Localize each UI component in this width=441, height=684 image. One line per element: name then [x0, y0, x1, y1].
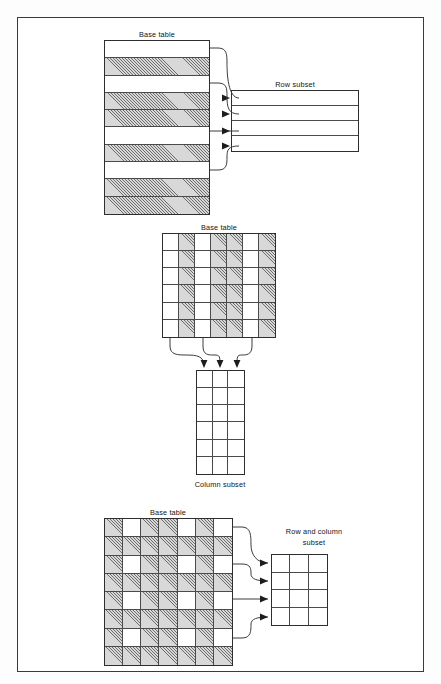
figure-page: Base table Row subset Base table Column …: [0, 0, 441, 684]
row-column-subset-connectors: [18, 18, 425, 678]
figure-frame: Base table Row subset Base table Column …: [17, 17, 424, 672]
